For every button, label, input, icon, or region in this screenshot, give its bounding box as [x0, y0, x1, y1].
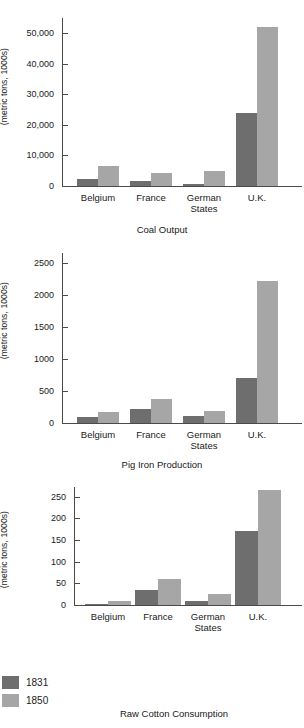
x-axis-category-label: Belgium — [83, 611, 133, 622]
plot-area: 050100150200250BelgiumFranceGerman State… — [74, 487, 292, 605]
legend-swatch-icon — [2, 676, 19, 689]
y-axis-tick — [62, 94, 68, 95]
y-axis-tick — [74, 497, 80, 498]
y-axis-line — [74, 487, 75, 605]
bar-1831-belgium — [77, 417, 98, 423]
y-axis-tick-label: 0 — [49, 182, 54, 191]
y-axis-tick — [62, 327, 68, 328]
bar-1831-belgium — [85, 604, 108, 605]
legend-label: 1850 — [26, 695, 48, 706]
y-axis-tick — [74, 562, 80, 563]
legend-item-1831: 1831 — [2, 676, 48, 689]
bar-1850-france — [151, 173, 172, 186]
x-axis-category-label: France — [133, 611, 183, 622]
bar-1850-u.k. — [257, 27, 278, 186]
x-axis-category-label: France — [125, 429, 178, 440]
y-axis-line — [62, 253, 63, 423]
x-axis-line — [62, 186, 302, 187]
y-axis-tick — [62, 423, 68, 424]
chart-pig-iron-production: (metric tons, 1000s) 0500100015002000250… — [0, 240, 304, 475]
y-axis-tick — [62, 391, 68, 392]
y-axis-tick-label: 40,000 — [26, 60, 54, 69]
bar-1850-belgium — [98, 412, 119, 423]
plot-area: 05001000150020002500BelgiumFranceGerman … — [62, 253, 292, 423]
y-axis-tick — [62, 64, 68, 65]
y-axis-tick-label: 1500 — [34, 323, 54, 332]
chart-coal-output: (metric tons, 1000s) 010,00020,00030,000… — [0, 0, 304, 240]
x-axis-category-label: German States — [183, 611, 233, 633]
y-axis-tick-label: 50,000 — [26, 29, 54, 38]
y-axis-tick-label: 2500 — [34, 259, 54, 268]
chart-title: Pig Iron Production — [10, 459, 304, 470]
y-axis-tick — [62, 295, 68, 296]
bar-1831-german-states — [183, 184, 204, 186]
x-axis-category-label: German States — [178, 192, 231, 214]
y-axis-tick-label: 2000 — [34, 291, 54, 300]
x-axis-category-label: Belgium — [72, 429, 125, 440]
x-axis-category-label: U.K. — [231, 429, 284, 440]
x-axis-category-label: France — [125, 192, 178, 203]
bar-1850-france — [151, 399, 172, 423]
chart-title: Raw Cotton Consumption — [22, 708, 304, 719]
y-axis-tick-label: 100 — [51, 558, 66, 567]
y-axis-tick-label: 10,000 — [26, 151, 54, 160]
y-axis-label: (metric tons, 1000s) — [0, 282, 9, 359]
legend-item-1850: 1850 — [2, 694, 48, 707]
bar-1831-france — [130, 409, 151, 423]
x-axis-category-label: German States — [178, 429, 231, 451]
bar-1831-u.k. — [236, 378, 257, 423]
bar-1850-u.k. — [257, 281, 278, 423]
bar-1850-german-states — [204, 171, 225, 186]
y-axis-tick — [74, 605, 80, 606]
y-axis-tick-label: 150 — [51, 536, 66, 545]
x-axis-category-label: Belgium — [72, 192, 125, 203]
legend-label: 1831 — [26, 677, 48, 688]
bar-1831-german-states — [185, 601, 208, 605]
y-axis-tick-label: 0 — [49, 419, 54, 428]
bar-1831-belgium — [77, 179, 98, 186]
bar-1831-u.k. — [236, 113, 257, 186]
plot-area: 010,00020,00030,00040,00050,000BelgiumFr… — [62, 18, 292, 186]
bar-1831-france — [135, 590, 158, 605]
bar-1831-u.k. — [235, 531, 258, 605]
y-axis-tick-label: 200 — [51, 514, 66, 523]
y-axis-label: (metric tons, 1000s) — [0, 48, 9, 125]
y-axis-tick — [62, 263, 68, 264]
x-axis-line — [74, 605, 302, 606]
y-axis-tick — [62, 186, 68, 187]
y-axis-tick — [62, 33, 68, 34]
bar-1850-u.k. — [258, 490, 281, 605]
bar-1850-belgium — [98, 166, 119, 186]
x-axis-line — [62, 423, 302, 424]
bar-1850-german-states — [204, 411, 225, 423]
y-axis-tick — [74, 583, 80, 584]
legend: 1831 1850 — [2, 676, 48, 712]
x-axis-category-label: U.K. — [231, 192, 284, 203]
y-axis-tick — [62, 155, 68, 156]
bar-1831-german-states — [183, 416, 204, 423]
y-axis-tick — [62, 359, 68, 360]
figure-page: (metric tons, 1000s) 010,00020,00030,000… — [0, 0, 304, 728]
y-axis-tick-label: 30,000 — [26, 90, 54, 99]
y-axis-tick-label: 50 — [56, 579, 66, 588]
x-axis-category-label: U.K. — [233, 611, 283, 622]
chart-title: Coal Output — [10, 224, 304, 235]
bar-1850-german-states — [208, 594, 231, 605]
y-axis-tick-label: 250 — [51, 493, 66, 502]
y-axis-tick — [74, 518, 80, 519]
y-axis-label: (metric tons, 1000s) — [0, 511, 9, 588]
y-axis-tick-label: 500 — [39, 387, 54, 396]
y-axis-line — [62, 18, 63, 186]
y-axis-tick-label: 20,000 — [26, 121, 54, 130]
bar-1850-belgium — [108, 601, 131, 605]
y-axis-tick-label: 0 — [61, 601, 66, 610]
bar-1831-france — [130, 181, 151, 186]
legend-swatch-icon — [2, 694, 19, 707]
bar-1850-france — [158, 579, 181, 605]
y-axis-tick — [62, 125, 68, 126]
y-axis-tick-label: 1000 — [34, 355, 54, 364]
y-axis-tick — [74, 540, 80, 541]
